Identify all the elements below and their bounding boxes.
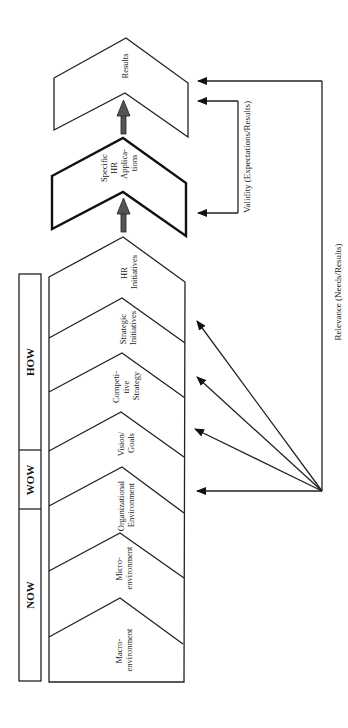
relevance-arrow-competitive-icon (197, 377, 322, 491)
relevance-arrow-strategic-icon (197, 321, 322, 491)
block-arrow-up-icon (117, 100, 130, 134)
phase-label-wow: WOW (24, 465, 36, 496)
stage-organizational-environment: Organizational Environment (116, 479, 136, 531)
stage-strategic-initiatives: Strategic Initiatives (118, 311, 138, 345)
block-arrow-up-icon (117, 198, 130, 232)
stage-column-frame (49, 237, 185, 682)
stage-column: HR Initiatives Strategic Initiatives Com… (49, 237, 185, 682)
phase-bar: HOW WOW NOW (19, 274, 41, 681)
hr-strategy-diagram: HOW WOW NOW HR Initiatives Strategic Ini… (0, 0, 348, 728)
relevance-arrow-vision-icon (195, 429, 322, 491)
phase-label-how: HOW (24, 348, 36, 376)
results-label: Results (120, 53, 130, 78)
validity-connector: Validity (Expectations/Results) (198, 101, 252, 213)
phase-label-now: NOW (24, 581, 36, 609)
relevance-connector: Relevance (Needs/Results) (195, 81, 343, 491)
validity-label: Validity (Expectations/Results) (242, 101, 252, 213)
specific-hr-applications-stage: Specific HR Applica- tions (52, 138, 186, 236)
stage-vision-goals: Vision/ Goals (116, 430, 136, 457)
relevance-label: Relevance (Needs/Results) (333, 243, 343, 340)
